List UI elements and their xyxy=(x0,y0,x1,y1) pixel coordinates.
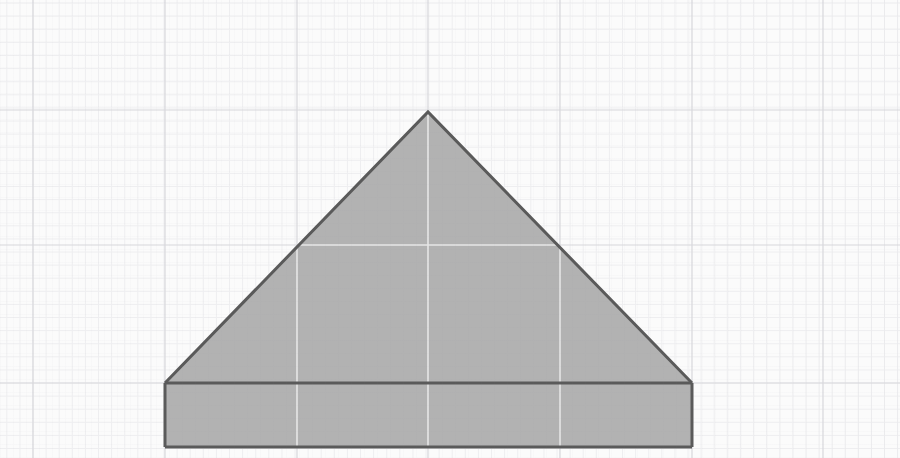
figure-canvas xyxy=(0,0,900,458)
figure-svg xyxy=(0,0,900,458)
